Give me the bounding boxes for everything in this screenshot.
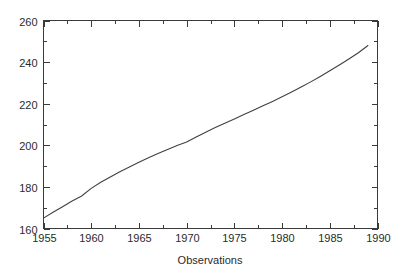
y-tick-label: 260: [19, 16, 37, 28]
x-tick-label: 1980: [270, 232, 294, 244]
x-tick-label: 1960: [79, 232, 103, 244]
x-axis-tick-labels: 19551960196519701975198019851990: [32, 232, 390, 244]
plot-frame: [44, 21, 378, 229]
series-group: [44, 45, 368, 218]
line-chart: 160180200220240260 195519601965197019751…: [0, 0, 406, 275]
x-tick-label: 1970: [175, 232, 199, 244]
y-tick-label: 220: [19, 99, 37, 111]
x-axis-minor-ticks: [68, 21, 355, 229]
y-tick-label: 180: [19, 182, 37, 194]
y-tick-label: 200: [19, 140, 37, 152]
x-axis-title: Observations: [178, 254, 243, 266]
x-tick-label: 1955: [32, 232, 56, 244]
x-tick-label: 1990: [366, 232, 390, 244]
y-axis-major-ticks: [44, 22, 378, 230]
chart-figure: 160180200220240260 195519601965197019751…: [0, 0, 406, 275]
y-tick-label: 240: [19, 57, 37, 69]
x-tick-label: 1965: [127, 232, 151, 244]
y-axis-minor-ticks: [44, 42, 378, 209]
y-axis-tick-labels: 160180200220240260: [19, 16, 37, 236]
x-tick-label: 1985: [318, 232, 342, 244]
x-axis-major-ticks: [45, 21, 379, 229]
x-tick-label: 1975: [222, 232, 246, 244]
data-line-observations: [44, 45, 368, 218]
